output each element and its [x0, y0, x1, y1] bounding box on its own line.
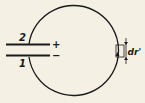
plate-1-label: 1: [19, 58, 26, 69]
arrow-down-icon: [124, 42, 128, 45]
plate-2-label: 2: [19, 32, 26, 43]
plus-sign: +: [52, 39, 60, 50]
circuit-diagram: 2 1 + − dr': [0, 0, 145, 103]
minus-sign: −: [52, 50, 60, 61]
loop-wire: [29, 5, 119, 95]
dr-label: dr': [128, 47, 142, 57]
arrow-up-icon: [124, 57, 128, 60]
